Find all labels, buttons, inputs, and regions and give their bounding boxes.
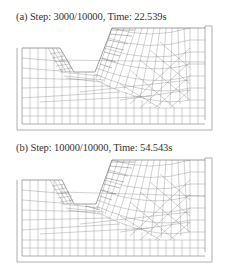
mesh-plot-a	[0, 0, 230, 135]
mesh-outline	[22, 28, 205, 72]
dense-mesh-notch-left	[48, 48, 104, 82]
coarse-mesh-left	[22, 28, 205, 124]
coarse-mesh-left	[22, 160, 205, 256]
mesh-plot-b	[0, 130, 230, 271]
dense-mesh-fan	[95, 28, 190, 108]
panel-a: (a) Step: 3000/10000, Time: 22.539s	[0, 0, 230, 135]
panel-b: (b) Step: 10000/10000, Time: 54.543s	[0, 130, 230, 271]
mesh-outline	[22, 160, 205, 204]
